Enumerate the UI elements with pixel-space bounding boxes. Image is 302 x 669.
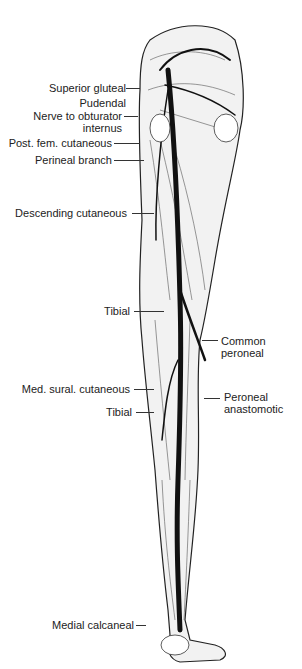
label-peroneal-anastomotic: Peroneal (224, 391, 268, 403)
label-pudendal: Pudendal (80, 97, 127, 109)
label-medial-calcaneal: Medial calcaneal (52, 619, 134, 631)
label-descending-cutaneous: Descending cutaneous (15, 207, 127, 219)
label-med-sural-cutaneous: Med. sural. cutaneous (22, 383, 130, 395)
label-internus: internus (83, 122, 122, 134)
label-superior-gluteal: Superior gluteal (49, 82, 126, 94)
label-common: Common (221, 335, 266, 347)
label-perineal-branch: Perineal branch (35, 154, 112, 166)
label-nerve-to-obturator: Nerve to obturator (33, 110, 122, 122)
label-peroneal: peroneal (221, 347, 264, 359)
label-anastomotic: anastomotic (224, 403, 283, 415)
label-tibial-lower: Tibial (106, 406, 132, 418)
label-post-fem-cutaneous: Post. fem. cutaneous (9, 137, 112, 149)
label-tibial-upper: Tibial (104, 305, 130, 317)
